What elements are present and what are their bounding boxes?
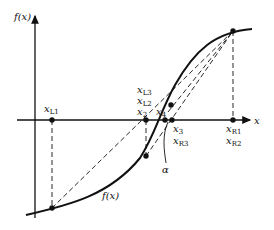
label-xR2: xR2	[226, 136, 241, 149]
x-axis-label: x	[254, 116, 260, 126]
curve-label: f(x)	[102, 191, 119, 201]
alpha-pointer	[164, 122, 168, 163]
label-x2: x2	[137, 107, 147, 120]
label-xR3: xR3	[173, 136, 188, 149]
regula-falsi-diagram: f(x) x xL1 xL3 xL2 x2 x4 x3 xR3 xR1 xR2 …	[0, 0, 274, 230]
function-curve	[26, 29, 252, 215]
label-x4: x4	[156, 107, 166, 120]
root-label-alpha: α	[162, 165, 169, 175]
y-axis-label: f(x)	[14, 12, 31, 22]
label-xL1: xL1	[44, 104, 59, 117]
